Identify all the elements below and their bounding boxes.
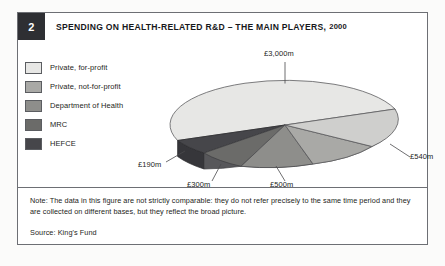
legend-swatch-icon xyxy=(25,100,42,112)
legend-item-label: Department of Health xyxy=(50,101,123,110)
notes-block: Note: The data in this figure are not st… xyxy=(30,195,418,237)
figure-number-badge: 2 xyxy=(18,13,45,40)
legend-item-label: Private, not-for-profit xyxy=(50,82,121,91)
figure-title-text: SPENDING ON HEALTH-RELATED R&D – THE MAI… xyxy=(56,22,326,32)
page-title: SPENDING ON HEALTH-RELATED R&D – THE MAI… xyxy=(56,13,347,40)
legend-swatch-icon xyxy=(25,81,42,93)
pie-chart-graphic: £3,000m £540m £500m £300m £190m xyxy=(148,40,429,187)
chart-plot-area: Private, for-profit Private, not-for-pro… xyxy=(18,40,427,187)
figure-source: Source: King's Fund xyxy=(30,228,418,237)
leader-line-center-right xyxy=(276,166,285,181)
legend-swatch-icon xyxy=(25,62,42,74)
value-label-right: £540m xyxy=(410,152,433,161)
legend-item-label: Private, for-profit xyxy=(50,63,107,72)
figure-header: 2 SPENDING ON HEALTH-RELATED R&D – THE M… xyxy=(18,13,427,40)
notes-divider xyxy=(18,187,427,188)
legend-item-label: MRC xyxy=(50,120,67,129)
legend-swatch-icon xyxy=(25,138,42,150)
figure-title-year: 2000 xyxy=(329,22,347,31)
figure-note: Note: The data in this figure are not st… xyxy=(30,195,418,217)
leader-line-right xyxy=(390,144,410,157)
legend-item-label: HEFCE xyxy=(50,139,76,148)
value-label-top: £3,000m xyxy=(264,49,294,58)
pie-chart-svg xyxy=(148,40,429,187)
figure-container: 2 SPENDING ON HEALTH-RELATED R&D – THE M… xyxy=(17,12,428,245)
value-label-left: £190m xyxy=(138,160,161,169)
legend-swatch-icon xyxy=(25,119,42,131)
